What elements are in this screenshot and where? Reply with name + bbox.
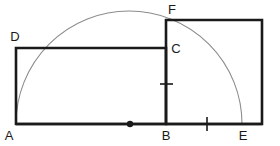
vertex-label-d: D: [10, 29, 19, 44]
figure-canvas: A B C D E F: [0, 0, 280, 146]
square-bfe: [166, 20, 262, 124]
vertex-label-b: B: [162, 128, 171, 143]
vertex-label-a: A: [5, 128, 14, 143]
vertex-label-f: F: [168, 2, 176, 17]
semicircle-arc: [16, 11, 242, 124]
vertex-label-c: C: [171, 41, 180, 56]
arc-center-dot: [127, 121, 133, 127]
vertex-label-e: E: [239, 128, 248, 143]
rectangle-abcd: [16, 48, 166, 124]
geometry-diagram: A B C D E F: [0, 0, 280, 146]
